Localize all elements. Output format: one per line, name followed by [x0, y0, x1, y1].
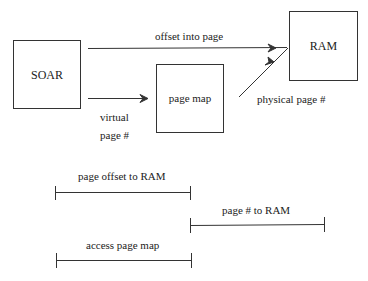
timing-label-page-number: page # to RAM: [222, 204, 290, 216]
offset-arrow-line: [88, 48, 287, 49]
offset-into-page-label: offset into page: [155, 30, 223, 42]
timing-label-access-map: access page map: [86, 239, 159, 251]
virtual-label: virtual: [100, 111, 129, 123]
physical-page-label: physical page #: [257, 93, 325, 105]
ram-label: RAM: [289, 39, 358, 54]
timing-line-page-number: [191, 225, 325, 226]
page-number-label: page #: [100, 129, 129, 141]
physical-page-arrow-line: [239, 48, 288, 97]
page-map-label: page map: [156, 92, 224, 104]
timing-label-page-offset: page offset to RAM: [78, 170, 165, 182]
soar-label: SOAR: [13, 68, 81, 83]
